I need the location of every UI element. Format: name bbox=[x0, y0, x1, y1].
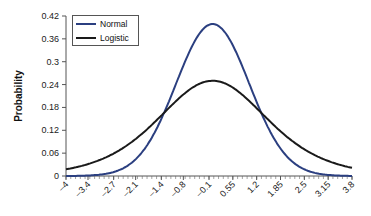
x-tick-label: –0.8 bbox=[168, 179, 187, 198]
y-tick-label: 0.18 bbox=[41, 102, 59, 112]
y-tick-label: 0.12 bbox=[41, 125, 59, 135]
y-tick-label: 0.24 bbox=[41, 80, 59, 90]
chart-plot: 00.060.120.180.240.30.360.42–4–3.4–2.7–2… bbox=[0, 0, 371, 216]
x-tick-label: 3.8 bbox=[340, 179, 356, 195]
y-tick-label: 0.42 bbox=[41, 11, 59, 21]
legend-label-normal: Normal bbox=[100, 19, 127, 29]
x-tick-label: 0.55 bbox=[218, 179, 237, 198]
x-tick-label: 2.5 bbox=[293, 179, 309, 195]
x-tick-label: 1.85 bbox=[265, 179, 284, 198]
curves bbox=[66, 24, 352, 176]
x-tick-label: –1.4 bbox=[146, 179, 165, 198]
legend-swatch-normal bbox=[76, 23, 96, 25]
curve-logistic bbox=[66, 81, 352, 170]
x-tick-label: –2.7 bbox=[99, 179, 118, 198]
legend-label-logistic: Logistic bbox=[100, 33, 129, 43]
x-tick-label: –3.4 bbox=[73, 179, 92, 198]
y-tick-label: 0.06 bbox=[41, 148, 59, 158]
x-tick-label: –4 bbox=[56, 179, 70, 193]
legend-item-normal: Normal bbox=[73, 17, 138, 30]
y-tick-label: 0 bbox=[54, 171, 59, 181]
legend-swatch-logistic bbox=[76, 37, 96, 39]
legend: Normal Logistic bbox=[72, 15, 139, 46]
y-tick-label: 0.3 bbox=[46, 57, 59, 67]
y-tick-label: 0.36 bbox=[41, 34, 59, 44]
y-axis-label: Probability bbox=[13, 70, 24, 122]
legend-item-logistic: Logistic bbox=[73, 31, 138, 44]
x-tick-label: –0.1 bbox=[194, 179, 213, 198]
x-tick-label: 3.15 bbox=[313, 179, 332, 198]
x-tick-label: –2.1 bbox=[121, 179, 140, 198]
x-tick-label: 1.2 bbox=[245, 179, 261, 195]
